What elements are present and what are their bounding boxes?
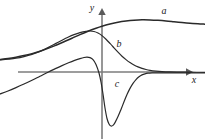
curve-labels-group: a b c — [115, 5, 167, 89]
curve-label-b: b — [117, 38, 122, 49]
y-axis-arrowhead — [98, 8, 105, 15]
function-graph-figure: a b c x y — [0, 0, 205, 139]
y-axis-label: y — [89, 2, 95, 13]
plot-canvas: a b c x y — [0, 0, 205, 139]
curve-label-c: c — [115, 78, 120, 89]
x-axis-label: x — [191, 74, 197, 85]
curve-label-a: a — [162, 5, 167, 16]
